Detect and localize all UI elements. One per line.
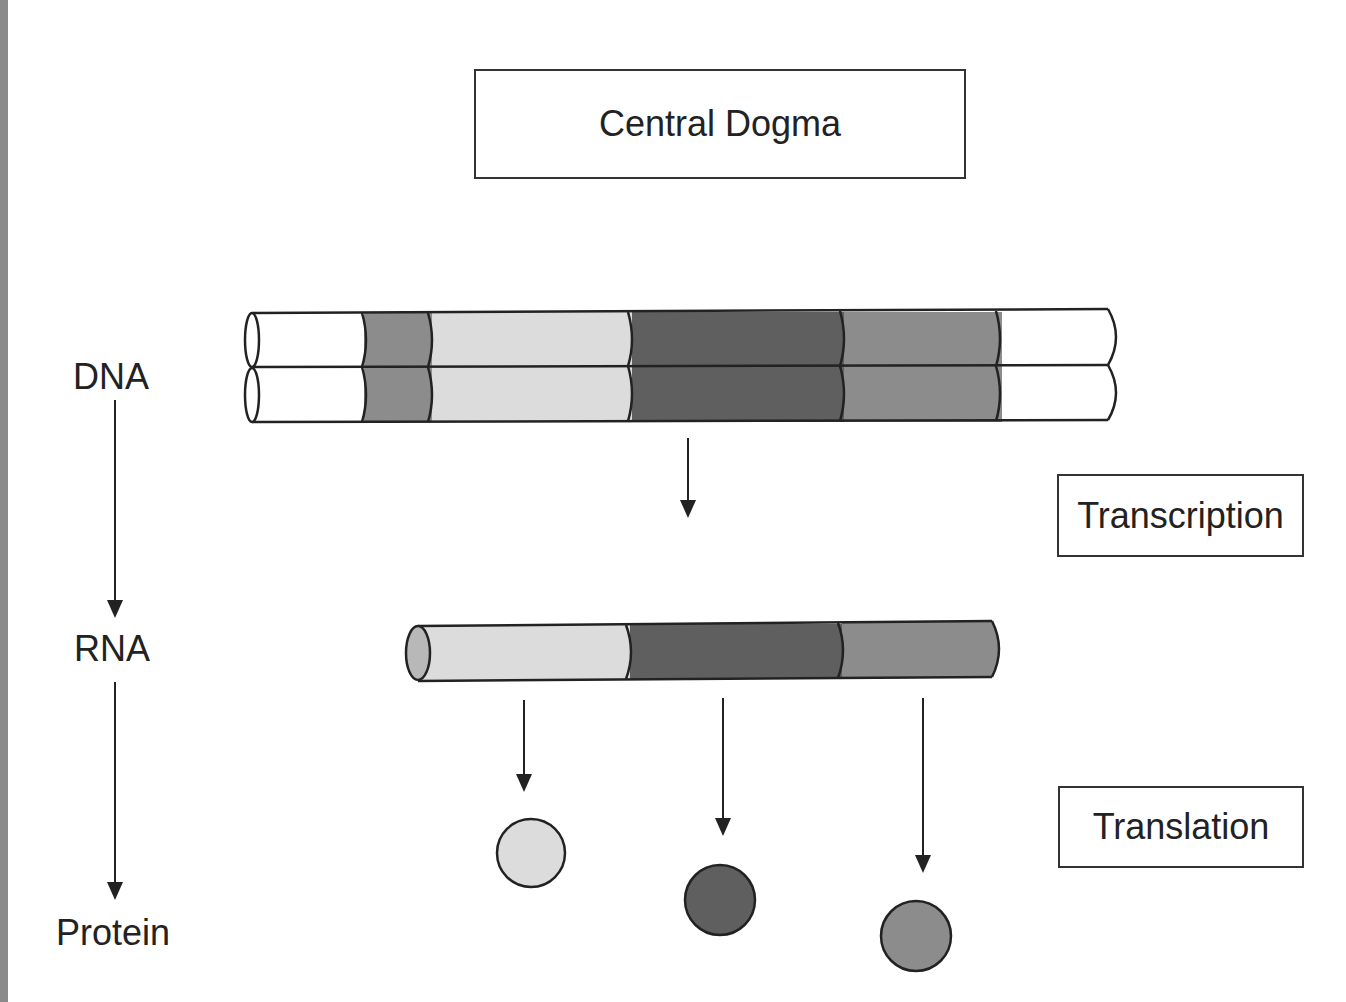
- arrow-translation-3-icon: [915, 698, 931, 873]
- arrow-rna-to-protein-icon: [107, 682, 123, 900]
- central-dogma-diagram: [0, 0, 1346, 1002]
- arrow-translation-2-icon: [715, 698, 731, 836]
- dna-double-strand: [245, 309, 1116, 422]
- protein-1-icon: [497, 819, 565, 887]
- arrow-translation-1-icon: [516, 700, 532, 792]
- protein-3-icon: [881, 901, 951, 971]
- arrow-transcription-icon: [680, 438, 696, 518]
- rna-strand: [406, 621, 999, 681]
- arrow-dna-to-rna-icon: [107, 400, 123, 618]
- protein-2-icon: [685, 865, 755, 935]
